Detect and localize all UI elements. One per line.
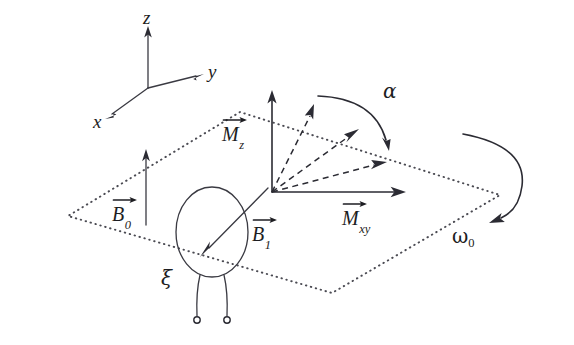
mz-label-base: M [222, 123, 239, 145]
tipped-magnetization-vector-1-shaft [272, 116, 310, 192]
label-mxy: Mxy [342, 208, 370, 233]
coil-terminal-left [194, 317, 200, 323]
alpha-angle-arc [318, 96, 391, 151]
diagram-graphics [0, 0, 574, 345]
omega-label-base: ω [452, 224, 468, 248]
coil-lead-left [197, 275, 200, 316]
coordinate-axes [105, 26, 204, 119]
transverse-plane-outline [68, 112, 500, 293]
mxy-label-subscript: xy [359, 222, 370, 236]
tipped-magnetization-vector-1-arrowhead [305, 104, 314, 120]
axis-label-x: x [93, 112, 101, 131]
omega-precession-arc [463, 134, 522, 223]
b0-field-arrow [142, 149, 150, 225]
b1-label-base: B [252, 223, 264, 245]
b1-arrowhead [200, 242, 214, 257]
tipped-magnetization-vector-3-shaft [272, 165, 374, 192]
omega-label-subscript: 0 [468, 236, 474, 250]
mz-label-group: Mz [222, 124, 244, 149]
label-omega-zero: ω0 [452, 226, 475, 246]
omega-arc-path [463, 134, 522, 218]
label-mz: Mz [222, 124, 244, 149]
x-axis-arrowhead [105, 113, 116, 119]
y-axis-line [148, 76, 196, 88]
coil-terminal-right [224, 317, 230, 323]
mz-label-subscript: z [239, 138, 244, 152]
b0-label-subscript: 0 [125, 218, 131, 232]
label-b1: B1 [252, 224, 270, 249]
coil-lead-right [224, 275, 227, 316]
mxy-label-base: M [342, 207, 359, 229]
y-axis-arrowhead [193, 74, 204, 80]
rf-coil [176, 187, 248, 323]
figure-canvas: z y x Mz Mxy [0, 0, 574, 345]
b0-label-base: B [112, 203, 124, 225]
b1-label-group: B1 [252, 224, 270, 249]
axis-label-z: z [143, 8, 150, 27]
mxy-label-group: Mxy [342, 208, 370, 233]
label-alpha: α [383, 81, 397, 101]
label-b0: B0 [112, 204, 130, 229]
x-axis-line [112, 88, 148, 114]
b0-label-group: B0 [112, 204, 130, 229]
b1-label-subscript: 1 [265, 238, 271, 252]
coil-loop-ellipse [176, 187, 248, 277]
axis-label-y: y [208, 62, 216, 81]
tipped-magnetization-vector-2-arrowhead [344, 129, 359, 142]
label-xi: ξ [161, 268, 172, 288]
tipped-magnetization-vector-2-shaft [272, 137, 348, 192]
